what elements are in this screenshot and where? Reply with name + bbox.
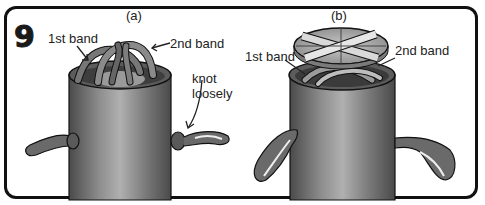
panel-a-first-band-label: 1st band xyxy=(48,32,98,45)
panel-b-second-band-label: 2nd band xyxy=(395,44,449,57)
panel-b-caption: (b) xyxy=(331,9,347,22)
panel-a-right-knot xyxy=(171,132,229,150)
panel-a-second-band-label: 2nd band xyxy=(170,37,224,50)
panel-a-knot-label-line2: loosely xyxy=(192,87,232,100)
panel-a-can xyxy=(69,61,171,200)
panel-a-knot-label-line1: knot xyxy=(192,72,217,85)
panel-b-lid xyxy=(294,28,388,69)
panel-b-right-loop xyxy=(395,137,455,180)
panel-a-caption: (a) xyxy=(126,9,142,22)
panel-b-first-band-label: 1st band xyxy=(245,50,295,63)
step-number: 9 xyxy=(14,22,35,52)
